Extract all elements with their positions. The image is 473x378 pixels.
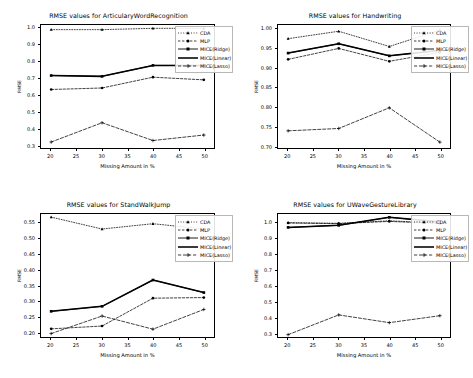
y-axis-tick-label: 0.75	[241, 124, 272, 130]
legend: CDA MLP MICE(Ridge) MICE(Linear) MICE(La…	[411, 215, 469, 262]
x-axis-label: Missing Amount in %	[40, 352, 215, 358]
legend-key-swatch	[177, 234, 199, 242]
legend-item-miceridge[interactable]: MICE(Ridge)	[177, 45, 230, 53]
legend-label: MLP	[435, 38, 446, 44]
legend: CDA MLP MICE(Ridge) MICE(Linear) MICE(La…	[411, 26, 469, 73]
x-axis-tick-label: 30	[328, 342, 348, 348]
legend-item-micelinear[interactable]: MICE(Linear)	[177, 243, 230, 251]
legend-label: MICE(Ridge)	[435, 46, 466, 52]
legend-item-cda[interactable]: CDA	[177, 218, 230, 226]
y-axis-tickmark	[38, 61, 40, 62]
legend-item-mlp[interactable]: MLP	[177, 226, 230, 234]
legend-item-miceridge[interactable]: MICE(Ridge)	[413, 234, 466, 242]
y-axis-tick-label: 0.45	[4, 251, 35, 257]
x-axis-tickmark	[50, 338, 51, 340]
y-axis-tickmark	[275, 334, 277, 335]
legend-key-swatch	[177, 37, 199, 45]
x-axis-tickmark	[76, 149, 77, 151]
y-axis-tickmark	[275, 87, 277, 88]
x-axis-tickmark	[338, 338, 339, 340]
legend-item-mlp[interactable]: MLP	[413, 226, 466, 234]
y-axis-tickmark	[38, 44, 40, 45]
y-axis-tick-label: 0.55	[4, 219, 35, 225]
y-axis-tick-label: 1.00	[241, 25, 272, 31]
x-axis-tickmark	[338, 149, 339, 151]
legend-item-micelasso[interactable]: MICE(Lasso)	[413, 62, 466, 70]
legend-item-micelinear[interactable]: MICE(Linear)	[177, 54, 230, 62]
x-axis-label: Missing Amount in %	[277, 163, 451, 169]
legend-item-micelinear[interactable]: MICE(Linear)	[413, 54, 466, 62]
y-axis-tickmark	[38, 270, 40, 271]
x-axis-tick-label: 35	[118, 342, 138, 348]
x-axis-tickmark	[287, 149, 288, 151]
x-axis-tick-label: 40	[380, 153, 400, 159]
y-axis-tick-label: 1.0	[241, 219, 272, 225]
y-axis-tickmark	[38, 27, 40, 28]
chart-title: RMSE values for StandWalkJump	[0, 201, 237, 208]
legend-item-miceridge[interactable]: MICE(Ridge)	[177, 234, 230, 242]
legend-item-micelasso[interactable]: MICE(Lasso)	[177, 251, 230, 259]
x-axis-tickmark	[364, 149, 365, 151]
legend-label: MICE(Lasso)	[199, 63, 230, 69]
legend-key-swatch	[413, 62, 435, 70]
legend-label: MLP	[199, 227, 210, 233]
y-axis-tickmark	[275, 68, 277, 69]
legend-item-cda[interactable]: CDA	[413, 218, 466, 226]
y-axis-tick-label: 0.5	[4, 109, 35, 115]
legend-key-swatch	[413, 37, 435, 45]
legend-item-cda[interactable]: CDA	[177, 29, 230, 37]
y-axis-tickmark	[275, 286, 277, 287]
legend-item-micelinear[interactable]: MICE(Linear)	[413, 243, 466, 251]
x-axis-tick-label: 25	[303, 153, 323, 159]
legend-label: MICE(Linear)	[199, 55, 231, 61]
x-axis-label: Missing Amount in %	[277, 352, 451, 358]
x-axis-tick-label: 30	[92, 153, 112, 159]
y-axis-tickmark	[275, 238, 277, 239]
legend-label: MICE(Lasso)	[435, 63, 466, 69]
legend-label: CDA	[199, 30, 210, 36]
y-axis-tickmark	[38, 317, 40, 318]
y-axis-tick-label: 0.95	[241, 45, 272, 51]
legend-label: CDA	[435, 219, 446, 225]
legend-item-micelasso[interactable]: MICE(Lasso)	[177, 62, 230, 70]
legend-item-micelasso[interactable]: MICE(Lasso)	[413, 251, 466, 259]
legend-label: MLP	[199, 38, 210, 44]
legend-item-mlp[interactable]: MLP	[413, 37, 466, 45]
y-axis-tickmark	[275, 107, 277, 108]
x-axis-tickmark	[441, 338, 442, 340]
x-axis-tickmark	[313, 149, 314, 151]
x-axis-tick-label: 40	[143, 153, 163, 159]
chart-panel-handwriting: RMSE values for Handwriting0.700.750.800…	[237, 0, 473, 189]
x-axis-tick-label: 50	[195, 153, 215, 159]
y-axis-tickmark	[38, 78, 40, 79]
x-axis-tickmark	[287, 338, 288, 340]
y-axis-tick-label: 0.5	[241, 299, 272, 305]
legend-key-swatch	[413, 54, 435, 62]
legend-item-cda[interactable]: CDA	[413, 29, 466, 37]
y-axis-tick-label: 0.4	[241, 315, 272, 321]
legend-key-swatch	[177, 218, 199, 226]
y-axis-tickmark	[38, 129, 40, 130]
chart-title: RMSE values for UWaveGestureLibrary	[237, 201, 473, 208]
y-axis-tick-label: 1.0	[4, 24, 35, 30]
y-axis-tickmark	[38, 95, 40, 96]
legend-key-swatch	[177, 226, 199, 234]
x-axis-tickmark	[179, 149, 180, 151]
chart-panel-articulary-word-recognition: RMSE values for ArticularyWordRecognitio…	[0, 0, 237, 189]
x-axis-tickmark	[390, 149, 391, 151]
x-axis-label: Missing Amount in %	[40, 163, 215, 169]
x-axis-tick-label: 35	[354, 153, 374, 159]
y-axis-tickmark	[38, 333, 40, 334]
x-axis-tickmark	[102, 149, 103, 151]
legend-item-miceridge[interactable]: MICE(Ridge)	[413, 45, 466, 53]
x-axis-tick-label: 45	[169, 153, 189, 159]
y-axis-tickmark	[38, 112, 40, 113]
chart-panel-uwave-gesture-library: RMSE values for UWaveGestureLibrary0.30.…	[237, 189, 473, 378]
legend-item-mlp[interactable]: MLP	[177, 37, 230, 45]
legend-key-swatch	[177, 62, 199, 70]
figure-canvas: RMSE values for ArticularyWordRecognitio…	[0, 0, 473, 378]
y-axis-tick-label: 0.25	[4, 314, 35, 320]
y-axis-tickmark	[275, 28, 277, 29]
legend-label: CDA	[199, 219, 210, 225]
chart-title: RMSE values for ArticularyWordRecognitio…	[0, 12, 237, 19]
